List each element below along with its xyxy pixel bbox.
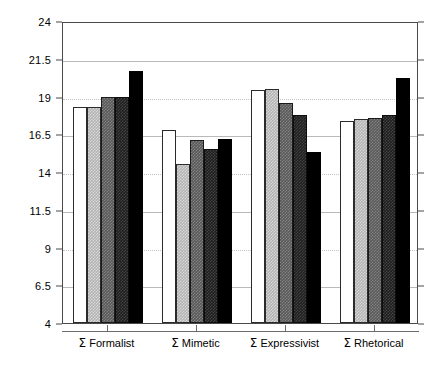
y-tick-mark-right	[418, 173, 424, 174]
x-category-label: ΣRhetorical	[343, 336, 403, 350]
bar[interactable]	[340, 121, 354, 323]
bar[interactable]	[162, 130, 176, 323]
bar[interactable]	[354, 119, 368, 323]
bar[interactable]	[279, 103, 293, 323]
x-category-label: ΣMimetic	[171, 336, 219, 350]
bar[interactable]	[176, 164, 190, 323]
bar[interactable]	[307, 152, 321, 323]
y-tick-label: 6.5	[35, 280, 51, 292]
sigma-icon: Σ	[343, 336, 354, 350]
y-tick-mark-right	[418, 97, 424, 98]
bar[interactable]	[368, 118, 382, 323]
bar[interactable]	[396, 78, 410, 323]
y-tick-label: 24	[38, 16, 51, 28]
y-tick-mark	[56, 324, 62, 325]
x-tick-mark	[285, 325, 286, 332]
bar[interactable]	[265, 89, 279, 323]
y-tick-label: 19	[38, 92, 51, 104]
bar[interactable]	[204, 149, 218, 323]
y-tick-mark-right	[418, 210, 424, 211]
y-tick-mark-right	[418, 324, 424, 325]
bar-group	[152, 23, 241, 323]
bar-group	[330, 23, 419, 323]
y-tick-mark	[56, 210, 62, 211]
y-tick-mark	[56, 173, 62, 174]
bar-chart: 46.5911.51416.51921.524 ΣFormalistΣMimet…	[0, 0, 443, 366]
bar[interactable]	[101, 97, 115, 324]
y-tick-mark-right	[418, 135, 424, 136]
x-tick-mark	[107, 325, 108, 332]
y-tick-mark	[56, 59, 62, 60]
y-tick-label: 11.5	[30, 205, 51, 217]
y-tick-label: 21.5	[29, 54, 51, 66]
x-category-text: Rhetorical	[354, 337, 404, 349]
x-category-label: ΣExpressivist	[250, 336, 319, 350]
bar[interactable]	[190, 140, 204, 323]
y-tick-mark-right	[418, 22, 424, 23]
x-category-text: Expressivist	[260, 337, 319, 349]
y-axis: 46.5911.51416.51921.524	[0, 0, 62, 366]
bar[interactable]	[73, 107, 87, 323]
y-tick-label: 4	[45, 318, 51, 330]
x-category-label: ΣFormalist	[79, 336, 135, 350]
y-tick-mark-right	[418, 59, 424, 60]
bar[interactable]	[218, 139, 232, 323]
bar[interactable]	[129, 71, 143, 323]
y-tick-mark	[56, 135, 62, 136]
bar[interactable]	[87, 107, 101, 323]
x-tick-mark	[196, 325, 197, 332]
bar[interactable]	[293, 115, 307, 323]
sigma-icon: Σ	[79, 336, 90, 350]
y-tick-mark-right	[418, 248, 424, 249]
plot-area	[62, 22, 418, 324]
y-tick-mark	[56, 22, 62, 23]
x-category-text: Mimetic	[182, 337, 220, 349]
bar-group	[241, 23, 330, 323]
bar[interactable]	[251, 90, 265, 323]
x-tick-mark	[374, 325, 375, 332]
y-tick-label: 9	[45, 243, 51, 255]
y-tick-mark	[56, 97, 62, 98]
y-tick-mark	[56, 286, 62, 287]
bar[interactable]	[115, 97, 129, 324]
sigma-icon: Σ	[171, 336, 182, 350]
x-category-text: Formalist	[89, 337, 134, 349]
sigma-icon: Σ	[250, 336, 261, 350]
y-tick-label: 14	[38, 167, 51, 179]
bar[interactable]	[382, 115, 396, 323]
y-tick-label: 16.5	[29, 129, 51, 141]
x-axis-line	[62, 331, 419, 332]
y-tick-mark	[56, 248, 62, 249]
bar-group	[63, 23, 152, 323]
y-tick-mark-right	[418, 286, 424, 287]
